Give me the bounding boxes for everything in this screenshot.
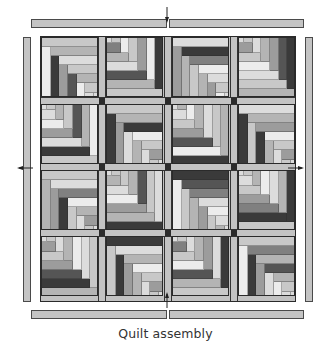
block-strip <box>173 147 221 156</box>
block-strip <box>73 237 82 270</box>
block-strip <box>107 237 163 246</box>
block-strip <box>155 171 163 222</box>
cornerstone <box>165 164 171 170</box>
block-strip <box>121 171 130 186</box>
log-cabin-block <box>41 37 98 97</box>
block-strip <box>204 105 213 138</box>
block-strip <box>150 292 159 296</box>
block-strip <box>239 80 287 89</box>
block-strip <box>173 279 221 288</box>
block-strip <box>51 47 98 56</box>
block-strip <box>274 273 295 282</box>
block-strip <box>68 74 77 97</box>
block-strip <box>244 171 253 176</box>
block-strip <box>187 237 196 252</box>
block-strip <box>56 105 65 120</box>
cornerstone <box>99 98 105 104</box>
arrow-right-icon <box>288 160 304 176</box>
block-strip <box>244 38 253 43</box>
block-strip <box>199 198 229 207</box>
block-strip <box>182 56 191 97</box>
block-center <box>42 237 47 242</box>
block-strip <box>107 222 163 230</box>
block-strip <box>42 252 64 261</box>
block-strip <box>239 222 295 230</box>
block-strip <box>85 216 98 225</box>
block-strip <box>265 132 295 141</box>
block-strip <box>182 47 229 56</box>
block-strip <box>150 282 163 291</box>
log-cabin-block <box>41 170 98 230</box>
block-strip <box>190 198 199 230</box>
block-strip <box>173 38 229 47</box>
block-strip <box>42 129 73 138</box>
block-strip <box>107 204 147 213</box>
log-cabin-block <box>106 104 163 164</box>
block-strip <box>274 282 283 296</box>
border-strip-top <box>31 19 167 28</box>
block-strip <box>216 93 225 97</box>
block-strip <box>239 114 248 164</box>
arrow-bottom-icon <box>159 292 175 308</box>
block-strip <box>116 255 125 296</box>
log-cabin-block <box>238 170 295 230</box>
block-strip <box>56 237 65 252</box>
block-strip <box>239 195 270 204</box>
block-strip <box>59 56 98 65</box>
block-strip <box>199 74 208 97</box>
block-center <box>42 105 47 110</box>
block-strip <box>178 105 187 110</box>
cornerstone <box>231 98 237 104</box>
block-strip <box>150 150 163 159</box>
block-strip <box>121 38 130 53</box>
block-strip <box>178 237 187 242</box>
block-strip <box>124 264 133 296</box>
block-strip <box>64 237 73 261</box>
block-strip <box>77 216 86 230</box>
block-strip <box>133 132 163 141</box>
block-strip <box>195 237 204 261</box>
block-strip <box>124 132 133 164</box>
block-center <box>225 93 229 97</box>
block-center <box>107 38 112 43</box>
block-strip <box>239 186 261 195</box>
block-strip <box>173 138 213 147</box>
block-strip <box>261 38 270 62</box>
block-strip <box>68 65 98 74</box>
block-strip <box>239 43 253 52</box>
block-center <box>239 171 244 176</box>
block-strip <box>129 171 138 195</box>
block-strip <box>85 83 98 92</box>
block-strip <box>216 226 225 230</box>
block-strip <box>239 105 295 114</box>
block-strip <box>107 43 121 52</box>
block-strip <box>107 176 121 185</box>
border-strip-right <box>305 37 313 302</box>
block-strip <box>107 62 138 71</box>
cornerstone <box>231 164 237 170</box>
block-strip <box>173 120 195 129</box>
block-strip <box>142 273 163 282</box>
block-strip <box>221 237 229 288</box>
block-strip <box>85 226 94 230</box>
block-strip <box>107 114 116 164</box>
block-strip <box>147 38 156 80</box>
block-strip <box>248 246 295 255</box>
cornerstone <box>165 230 171 236</box>
block-strip <box>85 93 94 97</box>
block-strip <box>107 246 116 296</box>
block-center <box>291 292 295 296</box>
block-strip <box>112 171 121 176</box>
block-strip <box>239 53 261 62</box>
block-strip <box>173 180 182 230</box>
block-strip <box>42 147 90 156</box>
block-strip <box>173 288 229 296</box>
block-strip <box>256 264 265 296</box>
block-strip <box>42 120 64 129</box>
block-strip <box>182 180 229 189</box>
block-strip <box>221 105 229 156</box>
block-strip <box>68 207 77 230</box>
block-strip <box>42 38 98 47</box>
cornerstone <box>165 98 171 104</box>
block-strip <box>42 47 51 97</box>
